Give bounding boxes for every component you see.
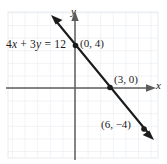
- point-label-6-minus4: (6, −4): [101, 119, 131, 130]
- x-axis: [6, 84, 156, 91]
- point-marker-0-4: [73, 43, 79, 49]
- point-marker-3-0: [107, 85, 113, 91]
- point-label-3-0: (3, 0): [114, 74, 138, 85]
- y-axis-label: y: [71, 6, 76, 17]
- equation-label: 4x + 3y = 12: [6, 39, 66, 51]
- x-axis-label: x: [156, 80, 161, 91]
- point-marker-6-minus4: [141, 126, 147, 132]
- y-axis: [71, 11, 78, 160]
- point-label-0-4: (0, 4): [80, 38, 104, 49]
- graph-figure: 4x + 3y = 12 (0, 4) (3, 0) (6, −4) x y: [0, 0, 167, 164]
- graph-plot-area: [0, 0, 167, 164]
